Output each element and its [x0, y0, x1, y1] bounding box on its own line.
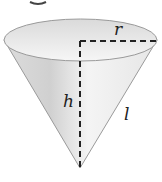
height-label: h: [63, 91, 74, 111]
cropped-text-fragment: [30, 2, 46, 4]
radius-label: r: [114, 19, 123, 39]
slant-height-label: l: [124, 104, 129, 124]
cone-diagram: r h l: [0, 0, 162, 182]
